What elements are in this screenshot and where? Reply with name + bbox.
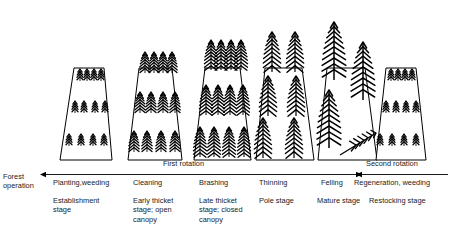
stage-line: Establishment: [53, 196, 123, 205]
stage-label-early-thicket: Early thicket stage; open canopy: [133, 196, 199, 224]
stage-label-restocking: Restocking stage: [369, 196, 449, 205]
plot-outline: [60, 68, 112, 160]
felling-plot: [317, 22, 377, 160]
stage-label-late-thicket: Late thicket stage; closed canopy: [199, 196, 265, 224]
forest-operation-label-line2: operation: [3, 181, 47, 190]
operation-label-planting-weeding: Planting,weeding: [53, 177, 109, 189]
cleaning-plot: [128, 52, 182, 160]
forest-operation-axis-label: Forest operation: [3, 172, 47, 190]
operation-label-regeneration-weeding: Regeneration, weeding: [354, 177, 430, 189]
stage-label-pole: Pole stage: [259, 196, 319, 205]
stage-line: Late thicket: [199, 196, 265, 205]
operation-label-thinning: Thinning: [259, 177, 287, 189]
plot-outline: [256, 68, 314, 160]
planting-weeding-plot: [60, 68, 112, 160]
stage-label-establishment: Establishment stage: [53, 196, 123, 215]
operation-label-cleaning: Cleaning: [133, 177, 162, 189]
stage-line: stage: [53, 205, 123, 214]
first-rotation-label: First rotation: [163, 159, 204, 168]
operation-label-brashing: Brashing: [199, 177, 228, 189]
stage-line: Restocking stage: [369, 196, 449, 205]
stage-line: stage; open: [133, 205, 199, 214]
regeneration-plot: [376, 68, 426, 160]
stage-line: canopy: [199, 215, 265, 224]
stage-line: stage; closed: [199, 205, 265, 214]
stage-line: Pole stage: [259, 196, 319, 205]
second-rotation-label: Second rotation: [366, 159, 418, 168]
stage-line: canopy: [133, 215, 199, 224]
forest-rotation-diagram: Forest operation First rotation Second r…: [0, 0, 450, 250]
brashing-plot: [193, 40, 251, 160]
operation-label-felling: Felling: [321, 177, 343, 189]
thinning-plot: [254, 32, 314, 160]
stage-line: Early thicket: [133, 196, 199, 205]
plot-outline: [376, 68, 426, 160]
forest-operation-label-line1: Forest: [3, 172, 47, 181]
